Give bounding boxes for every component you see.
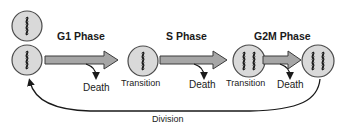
death-label-s: Death [189,80,216,90]
death-label-g1: Death [83,83,110,93]
phase-label-g2m: G2M Phase [254,31,311,42]
arrow-s-to-g2m [160,51,227,69]
chromosome-icon [253,52,255,70]
cell-transition-g2m [233,45,265,77]
transition-label-s: Transition [121,79,160,88]
phase-label-s: S Phase [166,31,207,42]
cell-g1-upper [12,11,42,41]
chromosome-icon [26,17,28,35]
cell-cycle-diagram [0,0,346,132]
cell-transition-s [128,46,158,76]
chromosome-icon [312,52,314,70]
arrow-g2m-to-division [263,51,301,69]
cell-g2m-end [302,45,334,77]
transition-label-g2m: Transition [226,79,265,88]
arrow-g1-to-s [45,51,118,69]
phase-label-g1: G1 Phase [57,31,105,42]
death-label-g2m: Death [277,80,304,90]
chromosome-icon [142,52,144,70]
death-arrow-g1 [86,64,96,76]
chromosome-icon [322,52,324,70]
division-label: Division [152,115,184,124]
chromosome-icon [26,51,28,69]
death-arrow-s [194,64,204,76]
chromosome-icon [243,52,245,70]
cell-g1-lower [12,45,42,75]
